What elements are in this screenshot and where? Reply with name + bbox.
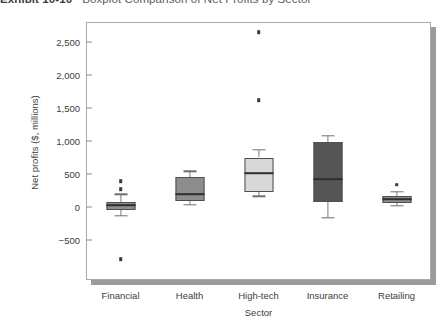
x-tick-label-retailing: Retailing: [378, 290, 415, 301]
whisker-cap-lower: [252, 196, 265, 197]
median-line: [106, 205, 135, 207]
y-tick-mark: [86, 108, 92, 109]
y-tick-mark: [86, 174, 92, 175]
x-tick-label-financial: Financial: [101, 290, 139, 301]
whisker-cap-upper: [183, 171, 196, 172]
y-tick-mark: [86, 42, 92, 43]
outlier-point: [395, 183, 399, 187]
whisker-cap-lower: [321, 217, 334, 218]
whisker-lower: [327, 202, 328, 217]
y-axis-tick-labels: −50005001,0001,5002,0002,500: [14, 0, 80, 336]
x-tick-label-health: Health: [176, 290, 203, 301]
x-tick-label-insurance: Insurance: [307, 290, 349, 301]
whisker-upper: [120, 194, 121, 201]
median-line: [382, 199, 411, 201]
median-line: [313, 178, 342, 180]
x-tick-label-high-tech: High-tech: [238, 290, 279, 301]
box-iqr: [313, 142, 342, 202]
whisker-cap-upper: [114, 194, 127, 195]
y-tick-label: 1,500: [20, 103, 80, 114]
box-iqr: [175, 177, 204, 201]
y-tick-label: 0: [20, 202, 80, 213]
whisker-cap-upper: [390, 191, 403, 192]
median-line: [244, 173, 273, 175]
y-tick-mark: [86, 75, 92, 76]
x-axis-title: Sector: [86, 307, 431, 318]
outlier-point: [257, 30, 261, 34]
whisker-upper: [258, 150, 259, 158]
y-tick-mark: [86, 141, 92, 142]
y-tick-mark: [86, 240, 92, 241]
whisker-cap-lower: [114, 215, 127, 216]
whisker-cap-lower: [390, 205, 403, 206]
outlier-point: [119, 179, 123, 183]
median-line: [175, 194, 204, 196]
y-tick-label: 500: [20, 169, 80, 180]
box-iqr: [244, 158, 273, 193]
outlier-point: [257, 98, 261, 102]
outlier-point: [119, 257, 123, 261]
boxplot-chart: Net profits ($, millions) Sector −500050…: [0, 0, 441, 336]
whisker-cap-upper: [252, 149, 265, 150]
y-tick-label: −500: [20, 235, 80, 246]
outlier-point: [119, 187, 123, 191]
whisker-cap-upper: [321, 135, 334, 136]
y-tick-label: 1,000: [20, 136, 80, 147]
y-tick-label: 2,000: [20, 70, 80, 81]
whisker-cap-lower: [183, 204, 196, 205]
y-tick-mark: [86, 207, 92, 208]
whisker-upper: [327, 136, 328, 143]
y-tick-label: 2,500: [20, 37, 80, 48]
